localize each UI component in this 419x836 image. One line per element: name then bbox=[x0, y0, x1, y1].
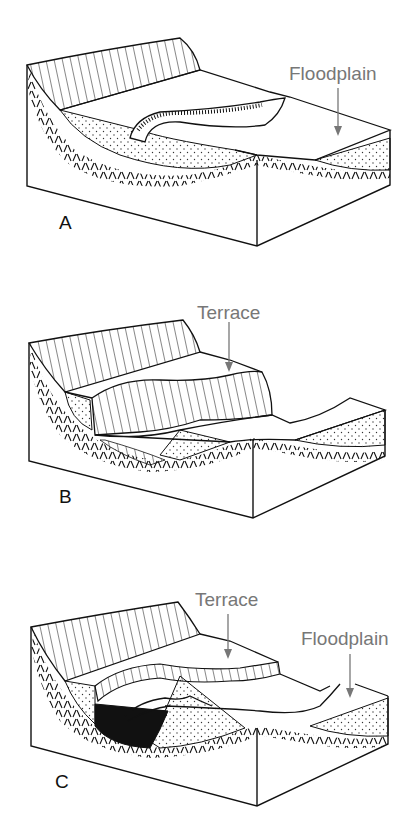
panel-b: Terrace B bbox=[0, 280, 419, 560]
label-terrace-c: Terrace bbox=[195, 589, 258, 611]
block-diagram-a bbox=[0, 0, 419, 280]
label-terrace-b: Terrace bbox=[197, 302, 260, 324]
panel-a: Floodplain A bbox=[0, 0, 419, 280]
panel-letter-a: A bbox=[59, 212, 72, 234]
panel-letter-b: B bbox=[59, 486, 72, 508]
panel-c: Terrace Floodplain C bbox=[0, 556, 419, 836]
label-floodplain-a: Floodplain bbox=[289, 63, 377, 85]
panel-letter-c: C bbox=[55, 771, 69, 793]
label-floodplain-c: Floodplain bbox=[301, 628, 389, 650]
